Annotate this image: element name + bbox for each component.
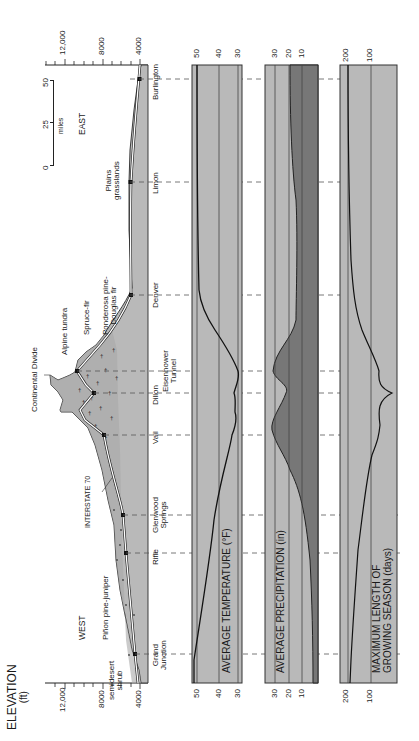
- elevation-ticks-bottom: [55, 683, 140, 689]
- precipitation-panel-title: AVERAGE PRECIPITATION (in): [276, 530, 287, 673]
- precip-tick-20-top: 20: [285, 49, 293, 58]
- elev-tick-8000-bottom: 8000: [98, 690, 106, 708]
- growing-season-panel-title: MAXIMUM LENGTH OF GROWING SEASON (days): [372, 548, 393, 673]
- colorado-transect-diagram: ††† ††† ††† ††† †††: [0, 0, 419, 741]
- season-tick-100-top: 100: [366, 49, 374, 62]
- elevation-panel: ††† ††† ††† ††† †††: [44, 59, 148, 689]
- svg-text:†: †: [78, 387, 81, 393]
- precip-tick-20-bottom: 20: [285, 689, 293, 698]
- scale-tick-25: 25: [42, 120, 50, 129]
- temp-tick-30-top: 30: [234, 49, 242, 58]
- town-grand-junction: GrandJunction: [152, 640, 169, 670]
- temp-tick-30-bottom: 30: [234, 689, 242, 698]
- svg-text:†: †: [86, 373, 89, 379]
- town-limon: Limon: [152, 172, 160, 194]
- temp-tick-40-top: 40: [215, 49, 223, 58]
- svg-text:†: †: [115, 375, 118, 381]
- pinon-juniper-label: Piñon pine-juniper: [102, 576, 110, 641]
- elev-tick-4000-top: 4000: [135, 37, 143, 55]
- temp-tick-50-top: 50: [193, 49, 201, 58]
- temp-tick-40-bottom: 40: [215, 689, 223, 698]
- town-dillon: Dillon: [152, 385, 160, 405]
- town-eisenhower-tunnel: EisenhowerTunnel: [162, 350, 179, 392]
- elev-tick-8000-top: 8000: [98, 37, 106, 55]
- semidesert-shrub-label: semidesertshrub: [108, 661, 125, 700]
- svg-text:†: †: [110, 415, 113, 421]
- town-burlington: Burlington: [152, 64, 160, 100]
- spruce-fir-label: Spruce-fir: [83, 300, 91, 335]
- scale-tick-0: 0: [42, 166, 50, 170]
- scale-tick-50: 50: [42, 78, 50, 87]
- ponderosa-douglas-fir-label: Ponderosa pine-Douglas fir: [102, 276, 119, 335]
- town-rifle: Rifle: [152, 549, 160, 565]
- alpine-tundra-label: Alpine tundra: [61, 308, 69, 355]
- temperature-panel: [192, 65, 242, 683]
- season-tick-200-bottom: 200: [342, 690, 350, 703]
- east-label: EAST: [78, 113, 87, 135]
- temp-tick-50-bottom: 50: [193, 689, 201, 698]
- season-tick-200-top: 200: [342, 49, 350, 62]
- precip-tick-10-bottom: 10: [298, 689, 306, 698]
- plains-grasslands-label: Plainsgrasslands: [105, 161, 122, 200]
- town-glenwood-springs: GlenwoodSprings: [152, 497, 169, 533]
- west-label: WEST: [78, 615, 87, 640]
- precip-tick-30-bottom: 30: [271, 689, 279, 698]
- temperature-panel-title: AVERAGE TEMPERATURE (°F): [222, 528, 233, 673]
- interstate-70-label: INTERSTATE 70: [84, 476, 91, 528]
- svg-text:†: †: [112, 347, 115, 353]
- elev-tick-12000-top: 12,000: [59, 31, 67, 55]
- svg-text:†: †: [99, 405, 102, 411]
- precip-tick-30-top: 30: [271, 49, 279, 58]
- season-tick-100-bottom: 100: [366, 690, 374, 703]
- elevation-axis-title: ELEVATION (ft): [6, 664, 29, 730]
- svg-text:†: †: [96, 380, 99, 386]
- elev-tick-4000-bottom: 4000: [135, 690, 143, 708]
- scale-unit: miles: [57, 118, 64, 134]
- svg-text:†: †: [88, 410, 91, 416]
- svg-text:†: †: [108, 390, 111, 396]
- town-vail: Vail: [152, 431, 160, 444]
- svg-text:†: †: [100, 353, 103, 359]
- elevation-ticks-top: [46, 59, 140, 65]
- precipitation-panel: [265, 65, 318, 683]
- continental-divide-label: Continental Divide: [31, 347, 39, 412]
- elev-tick-12000-bottom: 12,000: [59, 688, 67, 712]
- svg-text:†: †: [104, 367, 107, 373]
- town-denver: Denver: [152, 282, 160, 308]
- precip-tick-10-top: 10: [298, 49, 306, 58]
